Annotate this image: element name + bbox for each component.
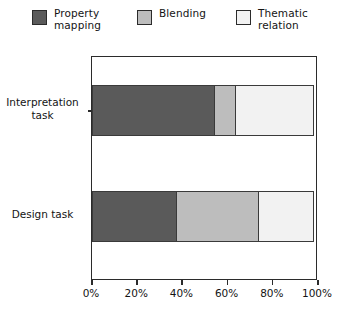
bar-segment-property-mapping	[92, 85, 215, 136]
legend-label-property-mapping: Property mapping	[54, 8, 101, 31]
y-axis-labels: Interpretation task Design task	[0, 56, 85, 280]
chart-legend: Property mapping Blending Thematic relat…	[0, 8, 343, 50]
legend-swatch-blending	[137, 10, 152, 25]
x-axis-label-100: 100%	[302, 287, 332, 300]
plot-area	[91, 56, 317, 280]
x-axis-tick-20	[136, 280, 138, 285]
bar-segment-thematic-relation	[235, 85, 313, 136]
x-axis-label-60: 60%	[215, 287, 238, 300]
legend-entry-property-mapping: Property mapping	[32, 8, 101, 31]
x-axis-labels: 0% 20% 40% 60% 80% 100%	[91, 287, 317, 303]
x-axis-ticks	[91, 280, 317, 286]
bar-row-interpretation-task	[92, 85, 316, 136]
bar-segment-blending	[214, 85, 236, 136]
bar-segment-blending	[176, 191, 259, 242]
x-axis-tick-100	[317, 280, 319, 285]
y-axis-label-design-task: Design task	[0, 208, 85, 221]
x-axis-label-20: 20%	[125, 287, 148, 300]
x-axis-tick-60	[227, 280, 229, 285]
bar-segment-thematic-relation	[258, 191, 314, 242]
x-axis-label-40: 40%	[170, 287, 193, 300]
x-axis-label-0: 0%	[83, 287, 100, 300]
legend-swatch-property-mapping	[32, 10, 47, 25]
bar-row-design-task	[92, 191, 316, 242]
legend-label-blending: Blending	[159, 8, 206, 20]
x-axis-label-80: 80%	[260, 287, 283, 300]
stacked-bar-chart: Property mapping Blending Thematic relat…	[0, 0, 343, 309]
legend-swatch-thematic-relation	[236, 10, 251, 25]
legend-entry-thematic-relation: Thematic relation	[236, 8, 308, 31]
x-axis-tick-0	[91, 280, 93, 285]
bar-segment-property-mapping	[92, 191, 177, 242]
legend-label-thematic-relation: Thematic relation	[258, 8, 308, 31]
legend-entry-blending: Blending	[137, 8, 206, 25]
x-axis-tick-80	[272, 280, 274, 285]
x-axis-tick-40	[181, 280, 183, 285]
y-axis-label-interpretation-task: Interpretation task	[0, 96, 85, 122]
